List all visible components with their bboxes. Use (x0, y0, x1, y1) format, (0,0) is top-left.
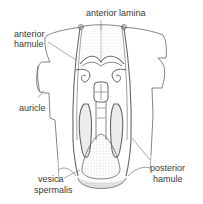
label-anterior-hamule-line2: hamule (14, 39, 44, 50)
label-auricle: auricle (19, 103, 46, 114)
label-anterior-lamina: anterior lamina (86, 8, 146, 19)
label-vesica-spermalis-line1: vesica (38, 174, 64, 185)
segment-outline-right (121, 27, 166, 155)
label-posterior-hamule-line1: posterior (150, 163, 185, 174)
label-anterior-hamule-line1: anterior (14, 29, 45, 40)
label-posterior-hamule-line2: hamule (153, 174, 183, 185)
anterior-hamule-right (112, 69, 126, 82)
label-vesica-spermalis-line2: spermalis (34, 185, 73, 196)
segment-outline-left (38, 27, 82, 160)
diagram: anterior lamina anterior hamule auricle … (0, 0, 203, 204)
